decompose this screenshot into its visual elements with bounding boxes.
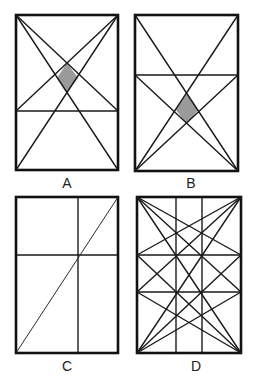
panel-b-label: B (186, 175, 195, 191)
panel-d: D (137, 197, 241, 374)
panel-a: A (16, 15, 118, 191)
geometric-diagram-figure: A B C D (0, 0, 255, 387)
panel-d-label: D (191, 358, 201, 374)
panel-a-label: A (62, 175, 72, 191)
panel-b: B (135, 15, 238, 191)
panel-b-shaded-kite (176, 94, 198, 124)
panel-a-shaded-kite (57, 63, 78, 92)
panel-c-diagonal-bl-tr (16, 197, 118, 353)
panel-c: C (16, 197, 118, 374)
panel-c-label: C (62, 358, 72, 374)
